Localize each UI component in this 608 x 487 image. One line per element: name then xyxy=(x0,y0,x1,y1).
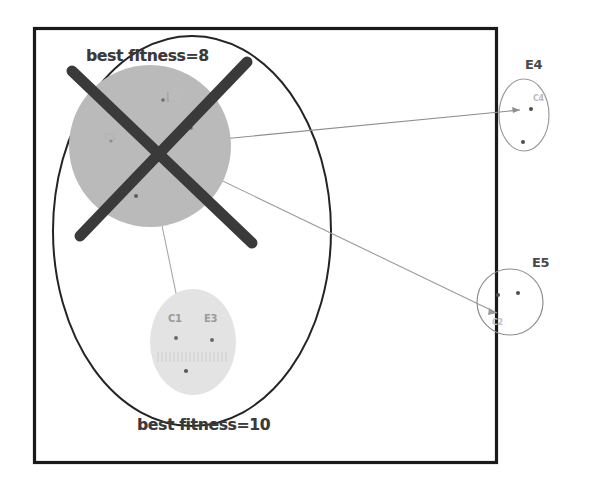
cluster-e4-label: E4 xyxy=(525,57,542,72)
cluster-point xyxy=(210,338,214,342)
cluster-main-inner-label-c3: C3 xyxy=(104,132,116,142)
diagram-canvas xyxy=(0,0,608,487)
cluster-bottom-inner-label-e3: E3 xyxy=(204,313,217,324)
cluster-bottom-region xyxy=(150,289,236,395)
best-fitness-top-label: best fitness=8 xyxy=(86,47,209,65)
cluster-bottom-inner-label-c1: C1 xyxy=(168,313,182,324)
cluster-point xyxy=(516,291,520,295)
cluster-point xyxy=(174,336,178,340)
cluster-point xyxy=(496,293,500,297)
figure-root: best fitness=8 best fitness=10 E4 E5 C1 … xyxy=(0,0,608,487)
cluster-point xyxy=(529,107,533,111)
cluster-main-inner-label-e2: E2 xyxy=(168,92,180,102)
page-background xyxy=(0,0,608,487)
cluster-e5-label: E5 xyxy=(532,255,549,270)
cluster-point xyxy=(184,369,188,373)
cluster-e4-inner-label-c4: C4 xyxy=(533,94,544,103)
cluster-point xyxy=(134,194,138,198)
cluster-point xyxy=(521,140,525,144)
cluster-point xyxy=(161,98,165,102)
best-fitness-bottom-label: best fitness=10 xyxy=(137,416,270,434)
cluster-e5-inner-label-c2: C2 xyxy=(492,318,503,327)
